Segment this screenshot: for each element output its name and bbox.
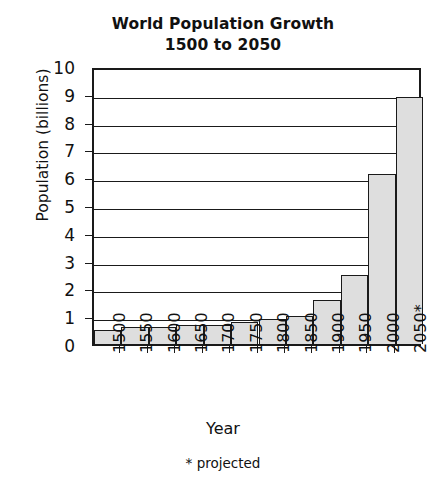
- x-axis-title: Year: [0, 419, 446, 438]
- x-axis-tick-label: 1850: [304, 291, 320, 353]
- x-axis-tick-label: 2050*: [413, 291, 429, 353]
- chart-title-line-2: 1500 to 2050: [0, 35, 446, 56]
- x-axis-tick-label: 1500: [112, 291, 128, 353]
- x-axis-tick-label: 1900: [331, 291, 347, 353]
- chart-title-line-1: World Population Growth: [0, 14, 446, 35]
- y-axis-tick-mark: [85, 96, 92, 97]
- x-axis-tick-label: 1550: [139, 291, 155, 353]
- x-axis-tick-label: 1600: [167, 291, 183, 353]
- chart-title: World Population Growth 1500 to 2050: [0, 14, 446, 56]
- x-axis-tick-label: 1650: [194, 291, 210, 353]
- y-axis-title: Population (billions): [34, 20, 52, 270]
- y-axis-tick-mark: [85, 179, 92, 180]
- y-axis-tick-mark: [85, 263, 92, 264]
- x-axis-tick-label: 1700: [221, 291, 237, 353]
- x-axis-tick-label: 1950: [358, 291, 374, 353]
- x-axis-tick-label: 2000: [386, 291, 402, 353]
- y-axis-tick-label: 2: [45, 282, 75, 299]
- x-axis-tick-label: 1750: [249, 291, 265, 353]
- y-axis-tick-mark: [85, 207, 92, 208]
- x-axis-tick-labels: 1500155016001650170017501800185019001950…: [92, 353, 421, 415]
- chart-footnote: * projected: [0, 455, 446, 471]
- y-axis-tick-mark: [85, 151, 92, 152]
- y-axis-tick-label: 0: [45, 338, 75, 355]
- y-axis-tick-mark: [85, 235, 92, 236]
- y-axis-tick-mark: [85, 290, 92, 291]
- y-axis-tick-label: 1: [45, 310, 75, 327]
- chart-figure: World Population Growth 1500 to 2050 Pop…: [0, 0, 446, 480]
- x-axis-tick-label: 1800: [276, 291, 292, 353]
- y-axis-tick-mark: [85, 124, 92, 125]
- y-axis-tick-mark: [85, 318, 92, 319]
